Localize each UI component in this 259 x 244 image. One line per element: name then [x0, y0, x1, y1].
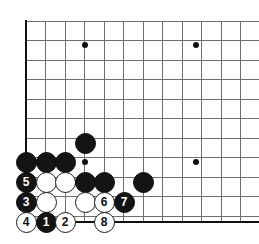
star-point — [82, 42, 88, 48]
move-number-label: 2 — [62, 216, 69, 228]
go-stone-black-move-1[interactable]: 1 — [36, 212, 57, 233]
go-stone-black-move-5[interactable]: 5 — [16, 172, 37, 193]
move-number-label: 8 — [101, 216, 108, 228]
go-stone-white-move-2[interactable]: 2 — [55, 212, 76, 233]
move-number-label: 3 — [23, 196, 30, 208]
go-stone-black[interactable] — [16, 152, 37, 173]
go-stone-white[interactable] — [55, 172, 76, 193]
go-stone-black[interactable] — [55, 152, 76, 173]
star-point — [193, 42, 199, 48]
go-stone-black[interactable] — [94, 172, 115, 193]
move-number-label: 6 — [101, 196, 108, 208]
move-number-label: 7 — [121, 196, 128, 208]
go-stone-white-move-8[interactable]: 8 — [94, 212, 115, 233]
go-stone-black-move-3[interactable]: 3 — [16, 192, 37, 213]
move-number-label: 5 — [23, 176, 30, 188]
go-stone-white[interactable] — [75, 192, 96, 213]
move-number-label: 1 — [43, 216, 50, 228]
move-number-label: 4 — [23, 216, 30, 228]
star-point — [82, 159, 88, 165]
go-stone-white-move-6[interactable]: 6 — [94, 192, 115, 213]
go-stone-black[interactable] — [36, 152, 57, 173]
go-stone-black-move-7[interactable]: 7 — [114, 192, 135, 213]
go-stone-black[interactable] — [75, 172, 96, 193]
go-stone-black[interactable] — [75, 133, 96, 154]
star-point — [193, 159, 199, 165]
go-board: 53674128 — [0, 0, 259, 244]
go-stone-white[interactable] — [36, 192, 57, 213]
go-stone-white[interactable] — [36, 172, 57, 193]
go-stone-white-move-4[interactable]: 4 — [16, 212, 37, 233]
go-stone-black[interactable] — [133, 172, 154, 193]
